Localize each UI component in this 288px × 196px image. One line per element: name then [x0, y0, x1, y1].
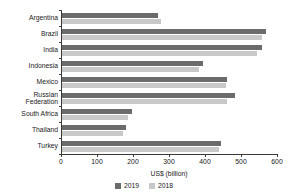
bar-2018-south-africa: [62, 115, 128, 120]
bar-2018-brazil: [62, 35, 262, 40]
x-axis-tick: [205, 154, 206, 157]
x-axis-tick-label: 600: [271, 158, 282, 166]
bar-2018-thailand: [62, 131, 123, 136]
y-axis-tick: [59, 42, 62, 43]
y-axis-tick: [59, 138, 62, 139]
bar-2019-south-africa: [62, 109, 132, 114]
y-axis-category-label: Indonesia: [0, 62, 58, 69]
category-row: Russian Federation: [62, 90, 278, 106]
x-axis-tick-label: 500: [235, 158, 246, 166]
x-axis-tick: [133, 154, 134, 157]
y-axis-tick: [59, 106, 62, 107]
y-axis-category-label: South Africa: [0, 110, 58, 117]
y-axis-category-label: Mexico: [0, 78, 58, 85]
bar-2018-russian-federation: [62, 99, 227, 104]
y-axis-tick: [59, 10, 62, 11]
y-axis-category-label: Argentina: [0, 14, 58, 21]
category-row: Brazil: [62, 26, 278, 42]
y-axis-category-label: Turkey: [0, 142, 58, 149]
y-axis-tick: [59, 58, 62, 59]
category-row: Mexico: [62, 74, 278, 90]
bar-2019-russian-federation: [62, 93, 235, 98]
category-row: South Africa: [62, 106, 278, 122]
category-row: Argentina: [62, 10, 278, 26]
chart-title: [4, 0, 284, 3]
bar-2018-turkey: [62, 147, 219, 152]
x-axis-tick: [241, 154, 242, 157]
y-axis-category-label: India: [0, 46, 58, 53]
legend-item-2019[interactable]: 2019: [115, 182, 139, 190]
x-axis-tick: [61, 154, 62, 157]
y-axis-tick: [59, 26, 62, 27]
category-row: Thailand: [62, 122, 278, 138]
bar-2019-thailand: [62, 125, 126, 130]
bar-2018-argentina: [62, 19, 161, 24]
bar-2019-argentina: [62, 13, 158, 18]
category-row: India: [62, 42, 278, 58]
y-axis-tick: [59, 90, 62, 91]
legend-label: 2018: [158, 182, 173, 190]
bar-2018-india: [62, 51, 257, 56]
y-axis-tick: [59, 74, 62, 75]
plot-area: ArgentinaBrazilIndiaIndonesiaMexicoRussi…: [61, 10, 278, 154]
legend-swatch-icon: [149, 183, 155, 189]
x-axis-tick-label: 100: [91, 158, 102, 166]
y-axis-category-label: Thailand: [0, 126, 58, 133]
bar-2019-turkey: [62, 141, 221, 146]
bar-2018-indonesia: [62, 67, 199, 72]
x-axis-tick: [277, 154, 278, 157]
x-axis-tick-label: 0: [59, 158, 63, 166]
y-axis-tick: [59, 122, 62, 123]
bar-2019-indonesia: [62, 61, 203, 66]
x-axis-title: US$ (billion): [61, 170, 277, 177]
bar-2019-india: [62, 45, 262, 50]
category-row: Turkey: [62, 138, 278, 154]
y-axis-category-label: Brazil: [0, 30, 58, 37]
legend-label: 2019: [124, 182, 139, 190]
bar-2018-mexico: [62, 83, 226, 88]
bar-2019-brazil: [62, 29, 266, 34]
chart-legend: 20192018: [0, 182, 288, 190]
x-axis-line: 0100200300400500600: [61, 154, 277, 155]
x-axis-tick-label: 300: [163, 158, 174, 166]
x-axis-tick: [169, 154, 170, 157]
bar-chart-figure: ArgentinaBrazilIndiaIndonesiaMexicoRussi…: [0, 0, 288, 196]
legend-swatch-icon: [115, 183, 121, 189]
x-axis-tick: [97, 154, 98, 157]
bar-2019-mexico: [62, 77, 227, 82]
x-axis-tick-label: 400: [199, 158, 210, 166]
category-row: Indonesia: [62, 58, 278, 74]
legend-item-2018[interactable]: 2018: [149, 182, 173, 190]
x-axis-tick-label: 200: [127, 158, 138, 166]
y-axis-category-label: Russian Federation: [0, 91, 58, 105]
